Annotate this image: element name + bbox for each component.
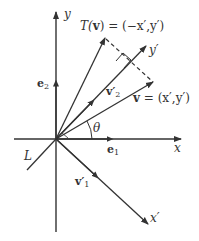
theta-label: θ	[93, 121, 101, 135]
v2-prime-label: v′2	[105, 85, 120, 99]
diagram-canvas: y x y′ x′ T(v) = (−x′,y′) v = (x′,y′) e1…	[0, 0, 199, 241]
transform-label: T(v) = (−x′,y′)	[80, 19, 164, 33]
theta-arc	[87, 121, 92, 139]
e2-label: e2	[37, 77, 49, 91]
v1-prime-label: v′1	[74, 175, 89, 189]
y-axis-label: y	[63, 7, 71, 21]
reflection-diagram: y x y′ x′ T(v) = (−x′,y′) v = (x′,y′) e1…	[0, 0, 199, 241]
x-axis-label: x	[174, 141, 181, 155]
v-label: v = (x′,y′)	[132, 91, 190, 105]
y-prime-label: y′	[148, 43, 159, 57]
e1-label: e1	[107, 143, 119, 157]
x-prime-label: x′	[150, 211, 160, 225]
v1-prime-vector	[56, 139, 96, 176]
line-L-label: L	[23, 149, 32, 163]
perpendicular-dashed-line	[106, 39, 153, 82]
